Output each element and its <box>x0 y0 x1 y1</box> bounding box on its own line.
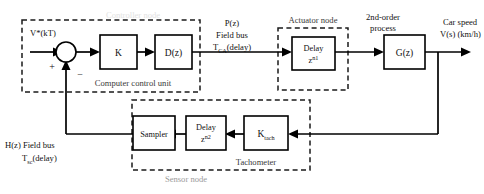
tachometer-gain-subscript: tach <box>264 134 275 141</box>
forward-bus-label-line3: TCA(delay) <box>213 42 251 54</box>
control-system-diagram: + − K D(z) Delay zn1 G(z) Ktach Delay zn… <box>0 0 484 194</box>
forward-bus-delay-tail: (delay) <box>227 42 251 52</box>
sensor-node-label: Sensor node <box>165 174 207 184</box>
controller-node-label: Controller node <box>106 10 160 20</box>
compensator-block-label: D(z) <box>165 48 182 59</box>
process-caption-line2: process <box>370 23 396 33</box>
output-label-line1: Car speed <box>443 17 478 27</box>
summing-junction <box>56 42 76 62</box>
reference-signal-label: V*(kT) <box>30 28 56 38</box>
feedback-bus-label-line2: Tsc(delay) <box>22 153 57 165</box>
sampler-block-label: Sampler <box>140 130 168 139</box>
actuator-delay-superscript: n1 <box>312 54 318 61</box>
sensor-delay-block-label: Delay <box>196 123 217 132</box>
feedback-bus-label-line1: H(z) Field bus <box>5 140 55 150</box>
forward-bus-label-line1: P(z) <box>225 18 239 28</box>
forward-bus-label-line2: Field bus <box>216 30 248 40</box>
sensor-delay-superscript: n2 <box>205 133 211 140</box>
output-label-line2: V(s) (km/h) <box>440 29 481 39</box>
arrowhead-gain-in <box>90 48 100 57</box>
arrowhead-ktach-in <box>288 130 298 139</box>
computer-control-unit-label: Computer control unit <box>95 78 172 88</box>
arrowhead-car-speed <box>461 48 471 57</box>
process-caption-line1: 2nd-order <box>366 12 400 22</box>
actuator-delay-block-label: Delay <box>304 44 325 53</box>
actuator-node-label: Actuator node <box>289 15 338 25</box>
arrowhead-dz-in <box>145 48 155 57</box>
arrowhead-actuator-in <box>282 48 292 57</box>
feedback-bus-delay-tail: (delay) <box>32 153 56 163</box>
summing-junction-plus-sign: + <box>49 61 55 72</box>
summing-junction-minus-sign: − <box>77 69 83 80</box>
gain-block-label: K <box>115 48 122 58</box>
process-block-label: G(z) <box>396 48 413 59</box>
tachometer-label: Tachometer <box>236 157 277 167</box>
arrowhead-gz-in <box>374 48 384 57</box>
